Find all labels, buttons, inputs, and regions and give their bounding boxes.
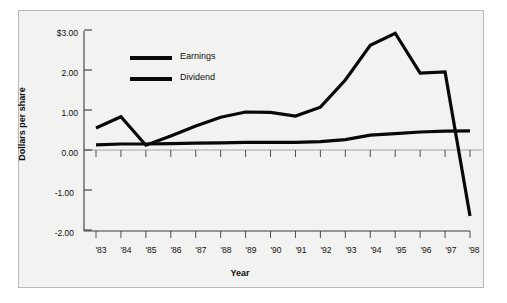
- x-tick-label-83: '83: [88, 245, 114, 255]
- x-tick-label-93: '93: [338, 245, 364, 255]
- x-tick-label-87: '87: [188, 245, 214, 255]
- legend-swatch-dividend: [130, 77, 172, 81]
- x-tick-label-86: '86: [163, 245, 189, 255]
- legend-label-earnings: Earnings: [180, 51, 216, 61]
- x-tick-label-95: '95: [388, 245, 414, 255]
- y-tick-label-3: $3.00: [36, 28, 78, 38]
- chart-figure: $3.00 2.00 1.00 0.00 -1.00 -2.00 Dollars…: [0, 0, 507, 303]
- x-tick-label-92: '92: [313, 245, 339, 255]
- x-tick-label-90: '90: [263, 245, 289, 255]
- y-tick-label-neg1: -1.00: [32, 188, 74, 198]
- x-tick-label-94: '94: [363, 245, 389, 255]
- x-tick-label-91: '91: [288, 245, 314, 255]
- x-tick-label-98: '98: [461, 245, 487, 255]
- x-tick-label-96: '96: [413, 245, 439, 255]
- y-axis-title: Dollars per share: [17, 74, 27, 174]
- legend-label-dividend: Dividend: [180, 72, 215, 82]
- x-axis-title: Year: [180, 268, 300, 278]
- legend-swatch-earnings: [130, 56, 172, 60]
- x-tick-label-89: '89: [238, 245, 264, 255]
- x-tick-label-85: '85: [138, 245, 164, 255]
- x-tick-label-84: '84: [113, 245, 139, 255]
- y-tick-label-1: 1.00: [36, 108, 78, 118]
- y-tick-label-2: 2.00: [36, 68, 78, 78]
- y-tick-label-0: 0.00: [36, 148, 78, 158]
- x-tick-label-88: '88: [213, 245, 239, 255]
- y-tick-label-neg2: -2.00: [32, 228, 74, 238]
